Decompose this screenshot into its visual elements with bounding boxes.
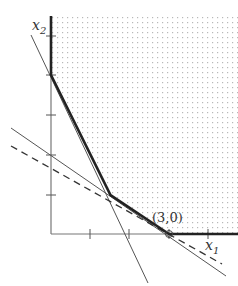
lp-diagram: x2 x1 (3,0) — [0, 0, 238, 286]
feasible-region — [51, 16, 238, 234]
optimal-point-label: (3,0) — [152, 210, 183, 225]
x-axis-label: x1 — [205, 237, 219, 256]
y-axis-label: x2 — [32, 17, 46, 36]
